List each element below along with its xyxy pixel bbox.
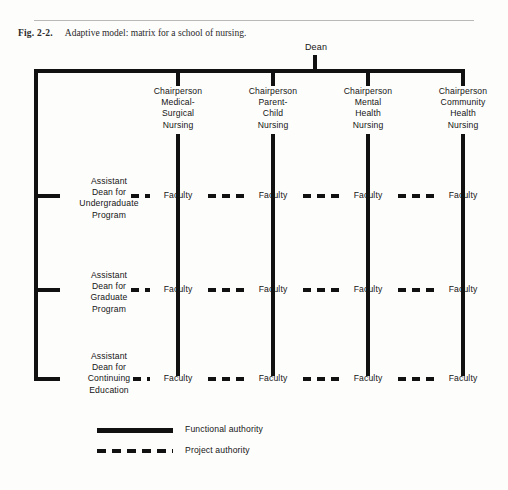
cell-faculty-r3-c1: Faculty — [152, 373, 204, 383]
node-dean: Dean — [288, 42, 344, 53]
node-chairperson-1-l2: Medical- — [134, 97, 222, 108]
row-label-3-l4: Education — [60, 385, 158, 396]
project-link-r2-c2 — [208, 288, 247, 292]
node-chairperson-4-l1: Chairperson — [419, 86, 507, 97]
column-stem-top-3 — [366, 69, 370, 86]
cell-faculty-r1-c1: Faculty — [152, 190, 204, 200]
row-stub-2 — [34, 288, 60, 292]
row-label-1-l4: Program — [60, 210, 158, 221]
legend-label-functional: Functional authority — [185, 424, 263, 434]
row-label-1-l3: Undergraduate — [60, 198, 158, 209]
project-link-r3-c4 — [398, 377, 437, 381]
figure-page: Fig. 2-2.Adaptive model: matrix for a sc… — [0, 0, 508, 490]
column-line-4 — [461, 134, 465, 376]
node-chairperson-1-l4: Nursing — [134, 120, 222, 131]
row-label-3-l2: Dean for — [60, 362, 158, 373]
node-chairperson-3-l3: Health — [324, 108, 412, 119]
row-label-1: Assistant Dean for Undergraduate Program — [60, 176, 158, 221]
project-link-r2-c4 — [398, 288, 437, 292]
cell-faculty-r2-c3: Faculty — [342, 284, 394, 294]
column-stem-top-2 — [271, 69, 275, 86]
cell-faculty-r3-c4: Faculty — [437, 373, 489, 383]
top-bus — [34, 69, 465, 73]
node-chairperson-3-l2: Mental — [324, 97, 412, 108]
node-chairperson-3-l4: Nursing — [324, 120, 412, 131]
node-chairperson-3: Chairperson Mental Health Nursing — [324, 86, 412, 131]
project-link-r1-c3 — [303, 194, 342, 198]
top-rule — [34, 20, 474, 21]
figure-caption-text: Adaptive model: matrix for a school of n… — [65, 28, 247, 38]
project-link-r1-c2 — [208, 194, 247, 198]
node-chairperson-4: Chairperson Community Health Nursing — [419, 86, 507, 131]
cell-faculty-r1-c4: Faculty — [437, 190, 489, 200]
node-chairperson-3-l1: Chairperson — [324, 86, 412, 97]
column-line-3 — [366, 134, 370, 376]
node-chairperson-4-l4: Nursing — [419, 120, 507, 131]
row-label-1-l1: Assistant — [60, 176, 158, 187]
node-chairperson-2-l4: Nursing — [229, 120, 317, 131]
row-label-2-l3: Graduate — [60, 292, 158, 303]
column-line-2 — [271, 134, 275, 376]
node-chairperson-2: Chairperson Parent- Child Nursing — [229, 86, 317, 131]
left-spine — [34, 69, 38, 381]
row-label-3-l1: Assistant — [60, 351, 158, 362]
node-chairperson-1-l3: Surgical — [134, 108, 222, 119]
column-stem-top-1 — [176, 69, 180, 86]
node-chairperson-4-l2: Community — [419, 97, 507, 108]
cell-faculty-r3-c3: Faculty — [342, 373, 394, 383]
project-link-r1-c1 — [131, 194, 150, 198]
project-link-r3-c2 — [208, 377, 247, 381]
column-line-1 — [176, 134, 180, 376]
legend-swatch-project — [97, 449, 173, 453]
row-stub-1 — [34, 194, 60, 198]
cell-faculty-r1-c3: Faculty — [342, 190, 394, 200]
cell-faculty-r2-c2: Faculty — [247, 284, 299, 294]
cell-faculty-r2-c1: Faculty — [152, 284, 204, 294]
node-chairperson-2-l1: Chairperson — [229, 86, 317, 97]
cell-faculty-r2-c4: Faculty — [437, 284, 489, 294]
figure-caption: Fig. 2-2.Adaptive model: matrix for a sc… — [18, 28, 246, 38]
node-chairperson-4-l3: Health — [419, 108, 507, 119]
node-chairperson-2-l3: Child — [229, 108, 317, 119]
legend-label-project: Project authority — [185, 445, 250, 455]
project-link-r2-c3 — [303, 288, 342, 292]
cell-faculty-r3-c2: Faculty — [247, 373, 299, 383]
project-link-r3-c3 — [303, 377, 342, 381]
row-label-2: Assistant Dean for Graduate Program — [60, 270, 158, 315]
row-label-2-l1: Assistant — [60, 270, 158, 281]
node-chairperson-1: Chairperson Medical- Surgical Nursing — [134, 86, 222, 131]
cell-faculty-r1-c2: Faculty — [247, 190, 299, 200]
figure-number: Fig. 2-2. — [18, 28, 53, 38]
row-label-3: Assistant Dean for Continuing Education — [60, 351, 158, 396]
node-chairperson-1-l1: Chairperson — [134, 86, 222, 97]
project-link-r1-c4 — [398, 194, 437, 198]
column-stem-top-4 — [461, 69, 465, 86]
legend-swatch-functional — [97, 428, 173, 433]
row-label-2-l4: Program — [60, 304, 158, 315]
project-link-r3-c1 — [133, 377, 150, 381]
node-chairperson-2-l2: Parent- — [229, 97, 317, 108]
project-link-r2-c1 — [131, 288, 150, 292]
row-stub-3 — [34, 377, 60, 381]
